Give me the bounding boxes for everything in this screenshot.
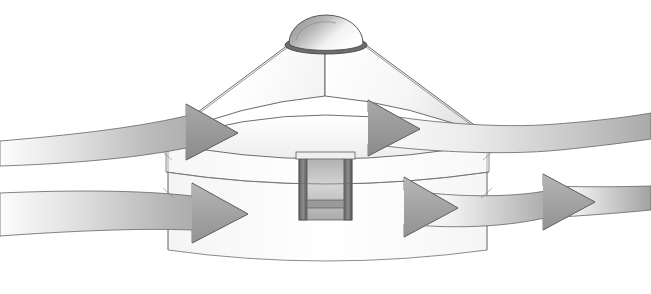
airflow-diagram-svg [0,0,651,294]
entrance-doorway-group[interactable] [296,152,355,220]
door-frame-right [344,158,352,220]
door-lintel [296,152,355,159]
door-frame-left [299,158,307,220]
door-sill [307,200,344,208]
diagram-canvas: Airflow around a circular domed building [0,0,651,294]
